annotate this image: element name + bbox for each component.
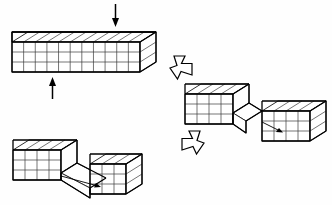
figure-root: [0, 0, 332, 205]
diagram-canvas: [0, 0, 332, 205]
straight-bar-front-face: [12, 42, 140, 72]
stepped-large-right-front-face: [90, 164, 126, 194]
shape-straight-bar: [12, 32, 156, 72]
